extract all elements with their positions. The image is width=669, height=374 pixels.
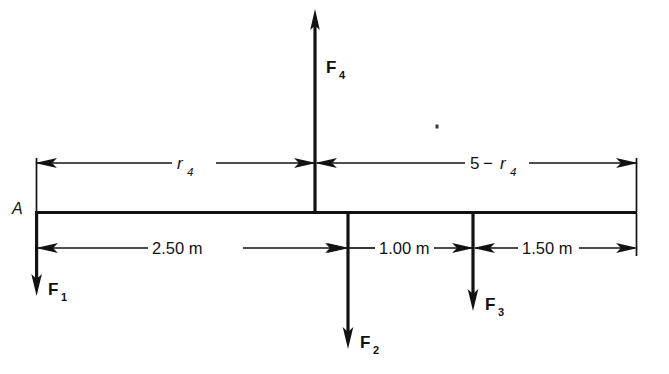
- dim-150-label: 1.50 m: [522, 239, 572, 257]
- force-F2-label: F: [360, 333, 370, 352]
- force-F3-label-subscript: 3: [498, 306, 504, 318]
- scan-speck: [436, 125, 439, 129]
- force-F1-label: F: [48, 280, 58, 299]
- dim-100-label: 1.00 m: [379, 239, 429, 257]
- dim-5-minus-r4-label-lead: 5: [470, 154, 479, 173]
- point-A-label: A: [11, 200, 23, 217]
- force-F3-label: F: [485, 295, 495, 314]
- dim-r4-label-base: r: [177, 154, 184, 173]
- dim-r4-label-subscript: 4: [187, 166, 193, 178]
- diagram-canvas: F 4 F 1 F 2 F 3 A r 4 5 − r 4: [0, 0, 669, 374]
- force-F4-label-subscript: 4: [339, 69, 346, 81]
- force-F2-label-subscript: 2: [373, 344, 379, 356]
- dim-5-minus-r4-label-operator: −: [483, 154, 493, 173]
- dim-5-minus-r4-label-base: r: [500, 154, 507, 173]
- free-body-diagram: F 4 F 1 F 2 F 3 A r 4 5 − r 4: [0, 0, 669, 374]
- dim-250-label: 2.50 m: [152, 239, 202, 257]
- force-F1-label-subscript: 1: [61, 291, 67, 303]
- dim-5-minus-r4-label-subscript: 4: [510, 166, 516, 178]
- force-F4-label: F: [326, 58, 336, 77]
